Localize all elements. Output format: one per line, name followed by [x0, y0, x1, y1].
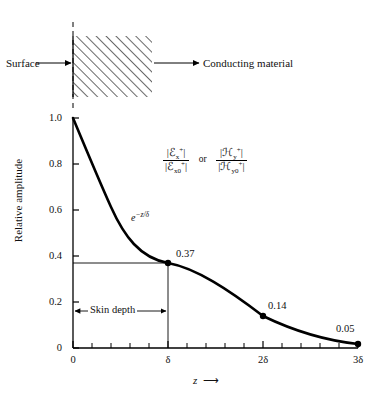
skin-depth-label: Skin depth — [88, 305, 137, 316]
y-tick-label-0-2: 0.2 — [36, 297, 62, 308]
formula-or-text: or — [192, 155, 214, 165]
formula-e-den-sub: x0 — [174, 167, 181, 175]
data-point-3delta — [355, 341, 361, 347]
formula-e-numerator: |ℰx+| — [163, 148, 189, 160]
data-label-014: 0.14 — [268, 301, 286, 312]
x-axis-title-arrow: ⟶ — [200, 374, 219, 386]
curve-eq-delta: δ — [146, 210, 150, 219]
formula-e-denominator: |ℰx0+| — [163, 160, 189, 173]
amplitude-ratio-formula: |ℰx+| |ℰx0+| or |ℋy+| |ℋy0+| — [163, 148, 247, 172]
data-label-005: 0.05 — [336, 324, 354, 335]
formula-h-num-sym: |ℋ — [220, 147, 233, 158]
y-tick-label-0-8: 0.8 — [36, 159, 62, 170]
formula-e-num-close: | — [183, 147, 185, 158]
data-point-delta — [165, 260, 171, 266]
x-axis-title-text: z — [193, 374, 197, 386]
formula-h-num-sub: y — [233, 153, 237, 161]
conducting-material-label: Conducting material — [203, 58, 293, 69]
y-tick-label-0-4: 0.4 — [36, 251, 62, 262]
formula-e-num-sym: |ℰ — [167, 147, 176, 158]
curve-equation-label: e−z/δ — [131, 213, 149, 223]
formula-h-den-sym: |ℋ — [218, 161, 231, 172]
formula-e-num-sub: x — [176, 153, 180, 161]
x-tick-label-3delta: 3δ — [345, 355, 371, 366]
formula-h-den-close: | — [242, 161, 244, 172]
formula-h-den-sub: y0 — [231, 167, 238, 175]
conductor-hatched-block — [73, 36, 152, 97]
x-axis-title: z ⟶ — [193, 375, 219, 386]
formula-e-den-close: | — [185, 161, 187, 172]
formula-e-fraction: |ℰx+| |ℰx0+| — [163, 148, 189, 172]
y-tick-label-0-6: 0.6 — [36, 205, 62, 216]
y-tick-marks — [73, 118, 79, 348]
data-point-2delta — [260, 313, 266, 319]
data-label-037: 0.37 — [176, 249, 194, 260]
formula-h-denominator: |ℋy0+| — [216, 160, 246, 173]
x-tick-label-delta: δ — [155, 355, 181, 366]
x-tick-label-2delta: 2δ — [250, 355, 276, 366]
y-axis-title: Relative amplitude — [13, 153, 24, 249]
y-tick-label-0: 0 — [36, 343, 62, 354]
formula-h-fraction: |ℋy+| |ℋy0+| — [216, 148, 246, 172]
top-diagram — [36, 22, 199, 108]
skin-depth-figure — [0, 0, 377, 399]
formula-h-num-close: | — [241, 147, 243, 158]
x-tick-label-0: 0 — [60, 355, 86, 366]
surface-label: Surface — [6, 58, 40, 69]
y-tick-label-1-0: 1.0 — [36, 113, 62, 124]
x-major-tick-marks — [73, 341, 358, 348]
formula-h-numerator: |ℋy+| — [216, 148, 246, 160]
formula-e-den-sym: |ℰ — [165, 161, 174, 172]
x-minor-tick-marks — [92, 343, 339, 348]
